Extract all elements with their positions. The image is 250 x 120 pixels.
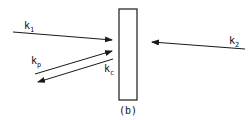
k1-label: k1: [24, 20, 34, 34]
kc-arrow: [38, 59, 113, 82]
kp-label: kp: [31, 55, 41, 69]
figure-caption: (b): [119, 105, 137, 116]
kc-label: kc: [104, 63, 114, 77]
k2-label: k2: [229, 35, 239, 49]
wave-vector-diagram: k1 kp kc k2 (b): [0, 0, 250, 120]
wall-rectangle: [119, 9, 137, 100]
k1-arrow: [13, 32, 112, 40]
